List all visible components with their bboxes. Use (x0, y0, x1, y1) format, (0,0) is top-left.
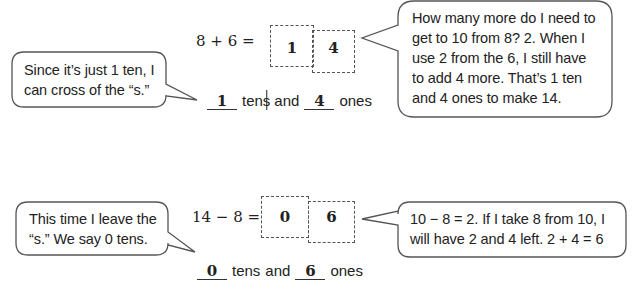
p1-left-callout-text: Since it’s just 1 ten, I can cross of th… (24, 60, 154, 100)
p1-tens-word-base: ten (242, 92, 263, 109)
p2-equation: 14 − 8 = (192, 208, 260, 226)
p2-ones-blank: 6 (295, 263, 325, 280)
p1-crossed-s: s (263, 92, 271, 109)
p2-ones-digit: 6 (308, 208, 355, 226)
p2-tens-word: tens (232, 262, 260, 279)
p2-left-callout-line: This time I leave the (29, 209, 157, 229)
p1-place-value-sentence: 1 tens and 4 ones (207, 92, 377, 110)
p1-right-callout-line: use 2 from the 6, I still have (412, 48, 596, 68)
p1-ones-digit: 4 (312, 39, 355, 57)
p2-tens-digit: 0 (261, 208, 309, 226)
p1-ones-word: ones (339, 92, 372, 109)
p1-right-callout-line: and 4 ones to make 14. (412, 88, 596, 108)
p2-right-callout-text: 10 − 8 = 2. If I take 8 from 10, I will … (410, 209, 605, 249)
p1-left-callout-line: can cross of the “s.” (24, 80, 154, 100)
p1-tens-digit: 1 (270, 39, 314, 57)
p1-right-callout-line: to add 4 more. That’s 1 ten (412, 68, 596, 88)
p2-tens-blank: 0 (197, 263, 227, 280)
p2-left-callout-line: “s.” We say 0 tens. (29, 229, 157, 249)
p1-right-callout-line: get to 10 from 8? 2. When I (412, 28, 596, 48)
p1-ones-blank: 4 (304, 93, 334, 110)
p2-ones-word: ones (330, 262, 363, 279)
p2-place-value-sentence: 0 tens and 6 ones (197, 262, 368, 280)
p2-left-callout-text: This time I leave the “s.” We say 0 tens… (29, 209, 157, 249)
p1-equation: 8 + 6 = (196, 32, 255, 50)
p1-tens-word: tens (242, 92, 270, 109)
p2-right-callout-line: 10 − 8 = 2. If I take 8 from 10, I (410, 209, 605, 229)
p1-and-word: and (274, 92, 299, 109)
p2-and-word: and (265, 262, 290, 279)
p1-left-callout-line: Since it’s just 1 ten, I (24, 60, 154, 80)
p1-right-callout-text: How many more do I need to get to 10 fro… (412, 8, 596, 108)
p1-right-callout-line: How many more do I need to (412, 8, 596, 28)
p2-right-callout-line: will have 2 and 4 left. 2 + 4 = 6 (410, 229, 605, 249)
p1-tens-blank: 1 (207, 93, 237, 110)
